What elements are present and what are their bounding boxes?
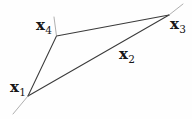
edge-x4-x3: [57, 15, 170, 36]
point-label-x4: x4: [36, 16, 52, 36]
label-x3-subscript: 3: [179, 23, 186, 35]
point-label-x1: x1: [10, 78, 26, 98]
geometry-diagram: x1 x4 x2 x3: [0, 0, 192, 119]
overshoot-below-x1: [13, 96, 28, 114]
overshoot-above-x3: [169, 4, 183, 15]
overshoot-above-x4: [54, 17, 57, 36]
point-label-x3: x3: [170, 15, 186, 35]
label-x1-subscript: 1: [19, 86, 26, 98]
figure-canvas: x1 x4 x2 x3: [0, 0, 192, 119]
label-x2-subscript: 2: [128, 53, 135, 65]
label-x4-subscript: 4: [45, 24, 52, 36]
edge-x1-x4: [28, 36, 57, 96]
point-label-x2: x2: [119, 45, 135, 65]
